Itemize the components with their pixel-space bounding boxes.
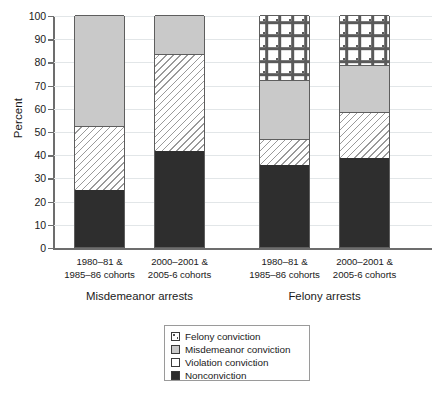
legend-item-label: Misdemeanor conviction: [185, 344, 290, 355]
legend-swatch-icon: [171, 358, 180, 367]
y-axis-tick-label: 90: [20, 33, 46, 45]
cohort-label-line2: 2005-6 cohorts: [127, 269, 233, 282]
cohort-label-line2: 2005-6 cohorts: [312, 269, 418, 282]
plus-hatch-overlay: [260, 16, 309, 80]
cohort-label-line1: 2000–2001 &: [312, 256, 418, 269]
bar-segment-misdemeanor-conviction: [260, 80, 309, 139]
y-axis-tick-mark: [48, 178, 54, 179]
bar-segment-nonconviction: [155, 151, 204, 247]
y-axis-tick-mark: [48, 132, 54, 133]
legend-item-label: Violation conviction: [185, 357, 268, 368]
stacked-bar: [339, 16, 390, 248]
y-axis-tick-label: 10: [20, 219, 46, 231]
y-axis-tick-mark: [48, 86, 54, 87]
group-label: Felony arrests: [225, 290, 425, 302]
y-axis-tick-mark: [48, 62, 54, 63]
bar-segment-nonconviction: [260, 165, 309, 247]
bar-segment-felony-conviction: [340, 15, 389, 65]
legend-item: Felony conviction: [171, 330, 309, 342]
stacked-bar: [74, 16, 125, 248]
bar-segment-violation-conviction: [75, 126, 124, 190]
plot-area: [54, 16, 432, 248]
legend-item: Violation conviction: [171, 356, 309, 368]
y-axis-tick-label: 30: [20, 172, 46, 184]
bar-segment-nonconviction: [340, 158, 389, 247]
y-axis-tick-mark: [48, 16, 54, 17]
plus-hatch-overlay: [340, 16, 389, 65]
bar-segment-misdemeanor-conviction: [155, 15, 204, 54]
y-axis-tick-label: 100: [20, 10, 46, 22]
legend-item: Nonconviction: [171, 369, 309, 381]
y-axis-title: Percent: [12, 73, 24, 163]
legend-swatch-icon: [171, 332, 180, 341]
x-axis-line: [53, 248, 432, 250]
bar-segment-felony-conviction: [260, 15, 309, 80]
bar-segment-violation-conviction: [155, 54, 204, 150]
stacked-bar: [154, 16, 205, 248]
chart-figure: 0102030405060708090100 Percent 1980–81 &…: [0, 0, 436, 403]
legend-swatch-icon: [171, 371, 180, 380]
group-label: Misdemeanor arrests: [40, 290, 240, 302]
legend-swatch-icon: [171, 345, 180, 354]
chart-legend: Felony convictionMisdemeanor convictionV…: [164, 325, 310, 381]
cohort-label-line1: 2000–2001 &: [127, 256, 233, 269]
y-axis-tick-label: 0: [20, 242, 46, 254]
footer-note-faint: [248, 390, 436, 400]
legend-item: Misdemeanor conviction: [171, 343, 309, 355]
y-axis-tick-label: 20: [20, 196, 46, 208]
y-axis-tick-mark: [48, 155, 54, 156]
bar-segment-violation-conviction: [260, 139, 309, 165]
y-axis-tick-mark: [48, 225, 54, 226]
y-axis-tick-mark: [48, 109, 54, 110]
bar-segment-misdemeanor-conviction: [340, 65, 389, 113]
cohort-label: 2000–2001 &2005-6 cohorts: [312, 256, 418, 281]
legend-item-label: Nonconviction: [185, 370, 246, 381]
bar-segment-misdemeanor-conviction: [75, 15, 124, 126]
legend-item-label: Felony conviction: [185, 331, 260, 342]
y-axis-tick-mark: [48, 248, 54, 249]
y-axis-tick-mark: [48, 202, 54, 203]
cohort-label: 2000–2001 &2005-6 cohorts: [127, 256, 233, 281]
bar-segment-violation-conviction: [340, 112, 389, 157]
stacked-bar: [259, 16, 310, 248]
bar-segment-nonconviction: [75, 190, 124, 247]
y-axis-tick-mark: [48, 39, 54, 40]
y-axis-tick-labels: 0102030405060708090100: [14, 0, 46, 403]
y-axis-tick-label: 80: [20, 56, 46, 68]
